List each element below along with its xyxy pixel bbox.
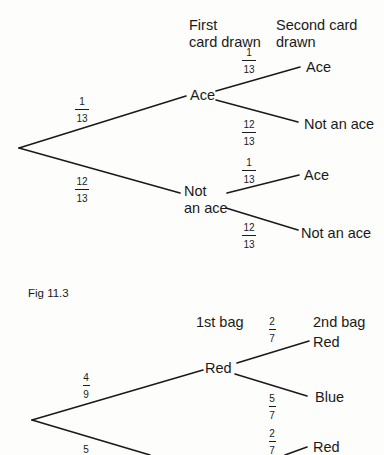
fraction-bar bbox=[75, 189, 89, 190]
figure-caption: Fig 11.3 bbox=[28, 287, 69, 299]
fraction-bar bbox=[242, 132, 256, 133]
leaf-notace-ace: Ace bbox=[304, 167, 329, 183]
prob2-second-red: 2 7 bbox=[260, 428, 284, 455]
prob-denominator: 7 bbox=[260, 445, 284, 455]
fraction-bar bbox=[242, 170, 256, 171]
fraction-bar bbox=[269, 329, 276, 330]
prob-denominator: 9 bbox=[74, 389, 98, 400]
prob-numerator: 1 bbox=[237, 157, 261, 168]
prob-denominator: 13 bbox=[237, 239, 261, 250]
prob2-red-red: 2 7 bbox=[260, 316, 284, 344]
prob-numerator: 1 bbox=[70, 96, 94, 107]
node-ace: Ace bbox=[190, 87, 215, 103]
fraction-bar bbox=[242, 235, 256, 236]
prob-denominator: 13 bbox=[70, 113, 94, 124]
leaf2-red-blue: Blue bbox=[315, 389, 344, 405]
branch-root-to-notace bbox=[19, 148, 180, 193]
prob-numerator: 2 bbox=[260, 428, 284, 439]
prob-numerator: 1 bbox=[237, 47, 261, 58]
leaf2-second-red: Red bbox=[313, 439, 340, 455]
header-2nd-bag: 2nd bag bbox=[313, 314, 365, 330]
fraction-bar bbox=[269, 406, 276, 407]
prob-numerator: 2 bbox=[260, 316, 284, 327]
prob-denominator: 13 bbox=[237, 136, 261, 147]
prob2-root-second: 5 bbox=[74, 444, 98, 455]
prob-denominator: 7 bbox=[260, 410, 284, 421]
branch2-red-to-red bbox=[237, 341, 309, 363]
header-first-line1: First bbox=[189, 17, 261, 34]
node-line2: an ace bbox=[184, 200, 228, 217]
leaf-ace-ace: Ace bbox=[306, 59, 331, 75]
branch2-root-to-red bbox=[32, 370, 203, 420]
leaf-ace-notace: Not an ace bbox=[304, 116, 374, 132]
prob2-red-blue: 5 7 bbox=[260, 393, 284, 421]
prob-denominator: 13 bbox=[237, 174, 261, 185]
fraction-bar bbox=[269, 441, 276, 442]
prob-numerator: 12 bbox=[237, 119, 261, 130]
prob-notace-ace: 1 13 bbox=[237, 157, 261, 185]
header-first-card: First card drawn bbox=[189, 17, 261, 51]
prob-root-ace: 1 13 bbox=[70, 96, 94, 124]
node2-red: Red bbox=[205, 360, 232, 376]
prob-notace-notace: 12 13 bbox=[237, 222, 261, 250]
branch-root-to-ace bbox=[19, 96, 186, 148]
prob-denominator: 13 bbox=[237, 64, 261, 75]
fraction-bar bbox=[242, 60, 256, 61]
prob-root-notace: 12 13 bbox=[70, 176, 94, 204]
fraction-bar bbox=[83, 385, 90, 386]
prob-numerator: 4 bbox=[74, 372, 98, 383]
fraction-bar bbox=[75, 109, 89, 110]
header-second-line2: drawn bbox=[276, 34, 357, 51]
prob-numerator: 12 bbox=[70, 176, 94, 187]
prob-numerator: 5 bbox=[260, 393, 284, 404]
header-1st-bag: 1st bag bbox=[196, 314, 244, 330]
prob2-root-red: 4 9 bbox=[74, 372, 98, 400]
header-second-line1: Second card bbox=[276, 17, 357, 34]
header-second-card: Second card drawn bbox=[276, 17, 357, 51]
branch2-second-to-red bbox=[285, 447, 307, 455]
prob-ace-notace: 12 13 bbox=[237, 119, 261, 147]
node-line1: Not bbox=[184, 183, 228, 200]
prob-numerator: 5 bbox=[74, 444, 98, 455]
leaf2-red-red: Red bbox=[313, 334, 340, 350]
prob-ace-ace: 1 13 bbox=[237, 47, 261, 75]
leaf-notace-notace: Not an ace bbox=[301, 225, 371, 241]
prob-denominator: 13 bbox=[70, 193, 94, 204]
prob-numerator: 12 bbox=[237, 222, 261, 233]
prob-denominator: 7 bbox=[260, 333, 284, 344]
node-not-an-ace: Not an ace bbox=[184, 183, 228, 217]
